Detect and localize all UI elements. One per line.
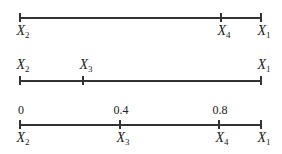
variable-label: X1 [257, 24, 270, 42]
scale-value: 0.4 [114, 104, 129, 116]
tick-mark [260, 13, 262, 22]
tick-mark [82, 76, 84, 85]
scale-value: 0.8 [213, 104, 228, 116]
variable-label: X1 [257, 58, 270, 76]
variable-label: X2 [16, 24, 29, 42]
variable-label: X3 [116, 131, 129, 149]
tick-mark [19, 120, 21, 129]
tick-mark [260, 120, 262, 129]
tick-mark [218, 120, 220, 129]
tick-mark [119, 120, 121, 129]
variable-label: X1 [257, 131, 270, 149]
variable-label: X2 [16, 131, 29, 149]
tick-mark [260, 76, 262, 85]
line-3 [20, 124, 261, 126]
variable-label: X4 [217, 24, 230, 42]
tick-mark [220, 13, 222, 22]
scale-value: 0 [18, 104, 24, 116]
variable-label: X3 [79, 58, 92, 76]
tick-mark [19, 76, 21, 85]
line-2 [20, 80, 261, 82]
variable-label: X2 [16, 58, 29, 76]
variable-label: X4 [215, 131, 228, 149]
line-1 [20, 17, 261, 19]
tick-mark [19, 13, 21, 22]
